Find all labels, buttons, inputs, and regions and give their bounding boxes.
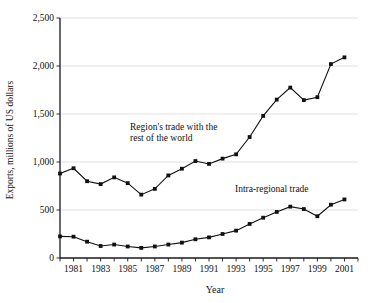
data-point-marker: [85, 179, 89, 183]
data-point-marker: [234, 152, 238, 156]
y-tick-labels: 05001,0001,5002,0002,500: [33, 13, 55, 263]
data-point-marker: [302, 207, 306, 211]
x-tick-label: 1993: [227, 264, 246, 274]
y-tick-label: 500: [40, 205, 55, 215]
data-point-marker: [302, 98, 306, 102]
data-point-marker: [207, 235, 211, 239]
data-point-marker: [275, 210, 279, 214]
data-point-marker: [194, 237, 198, 241]
data-point-marker: [343, 55, 347, 59]
y-tick-label: 2,000: [33, 61, 55, 71]
data-point-marker: [207, 162, 211, 166]
y-tick-label: 0: [49, 253, 54, 263]
x-tick-label: 1981: [64, 264, 83, 274]
data-point-marker: [288, 86, 292, 90]
data-point-marker: [112, 243, 116, 247]
data-point-marker: [99, 244, 103, 248]
chart-figure: 05001,0001,5002,0002,500 198119831985198…: [0, 0, 370, 303]
data-point-marker: [234, 229, 238, 233]
data-point-marker: [112, 175, 116, 179]
y-tick-label: 1,000: [33, 157, 55, 167]
data-point-marker: [58, 235, 62, 239]
data-point-marker: [248, 222, 252, 226]
x-tick-label: 1991: [200, 264, 219, 274]
series-intra-regional: [58, 198, 346, 250]
x-axis-title: Year: [206, 284, 225, 295]
x-tick-label: 1999: [308, 264, 327, 274]
data-point-marker: [99, 182, 103, 186]
data-point-marker: [315, 95, 319, 99]
data-point-marker: [72, 166, 76, 170]
x-tick-label: 1987: [145, 264, 164, 274]
data-point-marker: [248, 135, 252, 139]
y-tick-label: 2,500: [33, 13, 55, 23]
line-chart: 05001,0001,5002,0002,500 198119831985198…: [0, 0, 370, 303]
data-point-marker: [288, 205, 292, 209]
x-tick-label: 1983: [91, 264, 110, 274]
x-tick-label: 1985: [118, 264, 137, 274]
x-tick-label: 1995: [254, 264, 273, 274]
x-tick-labels: 1981198319851987198919911993199519971999…: [64, 264, 354, 274]
data-point-marker: [180, 167, 184, 171]
data-point-marker: [153, 187, 157, 191]
data-point-marker: [329, 203, 333, 207]
data-point-marker: [139, 246, 143, 250]
data-point-marker: [166, 243, 170, 247]
data-point-marker: [139, 193, 143, 197]
data-point-marker: [329, 62, 333, 66]
data-point-marker: [126, 181, 130, 185]
data-point-marker: [221, 157, 225, 161]
annotation-region-trade-line1: Region's trade with the: [130, 122, 217, 132]
series-line: [60, 199, 344, 247]
data-point-marker: [194, 159, 198, 163]
x-tick-label: 2001: [335, 264, 354, 274]
data-point-marker: [315, 214, 319, 218]
data-point-marker: [58, 172, 62, 176]
annotation-intra-regional-trade: Intra-regional trade: [235, 184, 309, 194]
annotation-region-trade-line2: rest of the world: [130, 133, 193, 143]
data-point-marker: [72, 235, 76, 239]
x-tick-label: 1989: [172, 264, 191, 274]
data-point-marker: [261, 216, 265, 220]
data-point-marker: [153, 245, 157, 249]
x-tick-label: 1997: [281, 264, 300, 274]
data-point-marker: [180, 241, 184, 245]
y-axis-title: Exports, millions of US dollars: [5, 80, 15, 199]
data-point-marker: [166, 174, 170, 178]
data-point-marker: [261, 114, 265, 118]
gridlines: [60, 18, 358, 210]
data-point-marker: [85, 240, 89, 244]
data-point-marker: [126, 245, 130, 249]
data-point-marker: [343, 198, 347, 202]
data-series-layer: [58, 55, 346, 249]
y-tick-label: 1,500: [33, 109, 55, 119]
data-point-marker: [221, 232, 225, 236]
data-point-marker: [275, 98, 279, 102]
